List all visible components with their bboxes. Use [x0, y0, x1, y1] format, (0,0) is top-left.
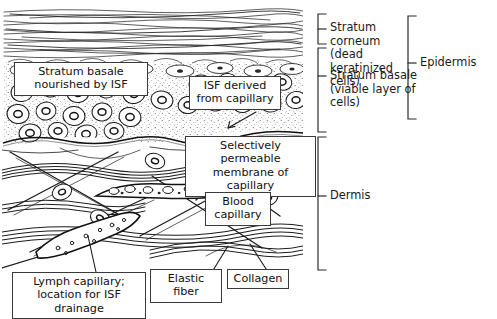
bracket-dermis: [318, 137, 326, 270]
callout-permeable-membrane: Selectively permeable membrane of capill…: [185, 136, 316, 197]
bracket-stratum-basale: [318, 48, 326, 132]
skin-diagram-figure: Stratum basale nourished by ISF ISF deri…: [0, 0, 497, 319]
callout-lymph-capillary: Lymph capillary; location for ISF draina…: [12, 272, 146, 319]
callout-blood-capillary: Blood capillary: [205, 192, 271, 226]
callout-stratum-basale-isf: Stratum basale nourished by ISF: [14, 62, 148, 96]
callout-isf-derived: ISF derived from capillary: [189, 76, 281, 110]
callout-collagen: Collagen: [227, 269, 289, 289]
bracket-label-stratum-basale: Stratum basale (viable layer of cells): [330, 69, 418, 110]
bracket-label-epidermis: Epidermis: [420, 56, 494, 70]
bracket-label-dermis: Dermis: [330, 189, 400, 203]
callout-elastic-fiber: Elastic fiber: [150, 269, 222, 303]
stratum-corneum-layer: [4, 9, 303, 58]
collagen-bundle: [150, 242, 303, 258]
